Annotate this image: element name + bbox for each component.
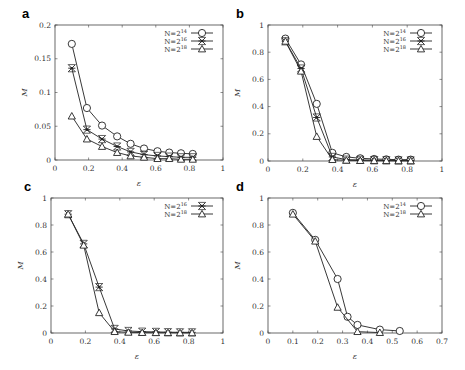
- x-tick-label: 0: [53, 164, 58, 173]
- x-tick-label: 0.6: [150, 164, 162, 173]
- y-tick-label: 0.6: [252, 75, 264, 84]
- x-tick-label: 0: [266, 337, 271, 346]
- x-tick-label: 0: [49, 337, 54, 346]
- y-tick-label: 0.8: [252, 48, 264, 57]
- y-axis-label: M: [20, 88, 29, 98]
- y-axis-label: M: [233, 88, 242, 98]
- circle-marker: [417, 29, 424, 36]
- x-axis-label: ε: [353, 352, 357, 361]
- x-tick-label: 0.6: [411, 337, 423, 346]
- series-line: [285, 41, 410, 161]
- y-tick-label: 0: [46, 156, 51, 165]
- y-tick-label: 0.2: [252, 129, 264, 138]
- y-tick-label: 0.1: [39, 88, 51, 97]
- circle-marker: [334, 275, 341, 282]
- circle-marker: [313, 100, 320, 107]
- y-tick-label: 0.6: [35, 248, 47, 257]
- panel-b: b00.20.40.60.8100.20.40.60.81εMN=214N=21…: [233, 6, 444, 189]
- circle-marker: [396, 327, 403, 334]
- circle-marker: [417, 202, 424, 209]
- y-tick-label: 0.2: [39, 21, 51, 30]
- series-line: [285, 41, 410, 160]
- y-tick-label: 0.05: [34, 122, 51, 131]
- x-axis-label: ε: [135, 352, 139, 361]
- legend-label: N=218: [383, 209, 406, 219]
- plot-frame: [51, 198, 223, 333]
- y-tick-label: 1: [259, 21, 264, 30]
- x-tick-label: 0.8: [401, 165, 413, 174]
- y-tick-label: 0: [42, 329, 47, 338]
- x-tick-label: 0.8: [183, 164, 195, 173]
- x-tick-label: 0.2: [312, 337, 324, 346]
- x-tick-label: 1: [440, 165, 445, 174]
- plot-frame: [268, 25, 442, 161]
- legend-label: N=218: [164, 44, 187, 54]
- asterisk-marker: [96, 284, 103, 291]
- x-tick-label: 1: [221, 164, 226, 173]
- x-axis-label: ε: [353, 180, 357, 189]
- x-axis-label: ε: [137, 179, 141, 188]
- asterisk-marker: [417, 37, 424, 44]
- y-tick-label: 0.2: [252, 302, 264, 311]
- triangle-marker: [68, 113, 75, 119]
- circle-marker: [68, 40, 75, 47]
- asterisk-marker: [313, 114, 320, 121]
- y-tick-label: 1: [259, 194, 264, 203]
- y-tick-label: 0: [259, 157, 264, 166]
- triangle-marker: [334, 304, 341, 310]
- y-tick-label: 0.8: [252, 221, 264, 230]
- asterisk-marker: [198, 37, 205, 44]
- x-tick-label: 0.6: [148, 337, 160, 346]
- x-tick-label: 0.4: [116, 164, 128, 173]
- series-line: [285, 39, 410, 160]
- legend-label: N=218: [383, 44, 406, 54]
- y-tick-label: 0.15: [34, 54, 51, 63]
- legend: N=216N=218: [164, 201, 213, 219]
- series-line: [68, 214, 192, 332]
- plot-frame: [268, 198, 442, 333]
- series-line: [72, 44, 193, 154]
- circle-marker: [127, 140, 134, 147]
- y-tick-label: 0: [259, 329, 264, 338]
- circle-marker: [198, 29, 205, 36]
- triangle-marker: [98, 143, 105, 149]
- asterisk-marker: [68, 65, 75, 72]
- y-tick-label: 0.8: [35, 221, 47, 230]
- panel-label: a: [22, 6, 30, 21]
- x-tick-label: 0.5: [386, 337, 398, 346]
- x-tick-label: 0.4: [361, 337, 373, 346]
- x-tick-label: 0.2: [79, 337, 91, 346]
- x-tick-label: 0.1: [287, 337, 299, 346]
- y-axis-label: M: [233, 261, 242, 271]
- legend: N=214N=218: [383, 201, 432, 219]
- x-tick-label: 1: [221, 337, 226, 346]
- triangle-marker: [83, 135, 90, 141]
- legend: N=214N=216N=218: [164, 28, 213, 54]
- panel-d: d00.10.20.30.40.50.60.700.20.40.60.81εMN…: [233, 179, 448, 361]
- x-tick-label: 0: [266, 165, 271, 174]
- x-tick-label: 0.7: [436, 337, 448, 346]
- legend-label: N=218: [164, 209, 187, 219]
- asterisk-marker: [98, 135, 105, 142]
- y-tick-label: 0.4: [35, 275, 47, 284]
- x-tick-label: 0.4: [114, 337, 126, 346]
- circle-marker: [98, 122, 105, 129]
- y-tick-label: 1: [42, 194, 47, 203]
- plot-frame: [55, 25, 223, 160]
- circle-marker: [114, 133, 121, 140]
- panel-label: c: [24, 179, 31, 194]
- series-line: [293, 214, 380, 332]
- x-tick-label: 0.8: [183, 337, 195, 346]
- y-axis-label: M: [16, 261, 25, 271]
- panel-a: a00.20.40.60.8100.050.10.150.2εMN=214N=2…: [20, 6, 225, 188]
- y-tick-label: 0.4: [252, 102, 264, 111]
- triangle-marker: [96, 309, 103, 315]
- x-tick-label: 0.6: [366, 165, 378, 174]
- circle-marker: [83, 104, 90, 111]
- panel-c: c00.20.40.60.8100.20.40.60.81εMN=216N=21…: [16, 179, 225, 361]
- asterisk-marker: [198, 202, 205, 209]
- asterisk-marker: [83, 126, 90, 133]
- series-line: [68, 214, 192, 333]
- x-tick-label: 0.2: [83, 164, 95, 173]
- triangle-marker: [313, 133, 320, 139]
